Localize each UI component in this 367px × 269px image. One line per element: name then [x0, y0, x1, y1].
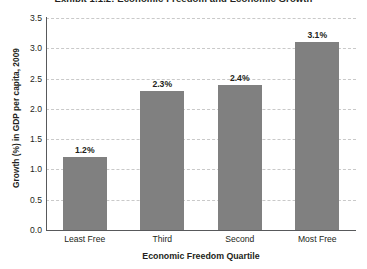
gridline [46, 18, 356, 19]
x-axis-tick-label: Third [152, 234, 172, 244]
bar-value-label: 2.3% [152, 79, 172, 89]
plot-area: 0.00.51.01.52.02.53.03.5 1.2%2.3%2.4%3.1… [46, 18, 356, 230]
x-axis-tick-label: Most Free [298, 234, 337, 244]
bar-value-label: 3.1% [307, 30, 327, 40]
bar-value-label: 2.4% [230, 73, 250, 83]
bar: 2.4% [218, 85, 262, 230]
chart-title: Exhibit 1.1.2: Economic Freedom and Econ… [0, 0, 367, 4]
y-axis-tick-label: 3.5 [30, 13, 42, 23]
y-axis-title: Growth (%) in GDP per capita, 2009 [11, 23, 21, 213]
x-axis-title: Economic Freedom Quartile [46, 251, 356, 261]
bar: 3.1% [295, 42, 339, 230]
y-axis-tick-label: 0.0 [30, 225, 42, 235]
y-axis-tick-label: 2.0 [30, 104, 42, 114]
bar-chart-figure: Exhibit 1.1.2: Economic Freedom and Econ… [0, 0, 367, 269]
y-axis-tick-label: 1.0 [30, 164, 42, 174]
bar-value-label: 1.2% [75, 145, 95, 155]
y-axis-line [46, 17, 47, 231]
y-axis-tick-label: 0.5 [30, 195, 42, 205]
y-axis-tick-label: 2.5 [30, 74, 42, 84]
y-axis-tick-label: 1.5 [30, 134, 42, 144]
y-axis-tick-label: 3.0 [30, 43, 42, 53]
bar: 1.2% [63, 157, 107, 230]
x-axis-line [46, 230, 356, 231]
x-axis-tick-label: Second [225, 234, 254, 244]
bar: 2.3% [140, 91, 184, 230]
x-axis-tick-label: Least Free [64, 234, 105, 244]
